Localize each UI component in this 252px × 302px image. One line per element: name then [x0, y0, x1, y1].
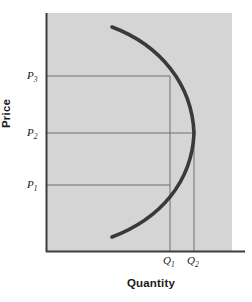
y-tick-p2-subscript: 2 [34, 132, 38, 141]
y-tick-p1-subscript: 1 [34, 184, 38, 193]
y-tick-label-p2: P2 [27, 126, 37, 141]
y-tick-p2-base: P [27, 126, 34, 138]
y-tick-label-p1: P1 [27, 178, 37, 193]
y-tick-p1-base: P [27, 178, 34, 190]
x-tick-label-q1: Q1 [163, 254, 175, 269]
chart-figure: Price Quantity P3 P2 P1 Q1 Q2 [0, 0, 252, 302]
x-tick-q1-base: Q [163, 254, 171, 266]
x-tick-q1-subscript: 1 [171, 260, 175, 269]
x-tick-label-q2: Q2 [187, 254, 199, 269]
y-tick-label-p3: P3 [27, 69, 37, 84]
supply-curve-chart [0, 0, 252, 302]
y-tick-p3-subscript: 3 [34, 75, 38, 84]
x-axis-title: Quantity [96, 277, 206, 289]
y-tick-p3-base: P [27, 69, 34, 81]
x-tick-q2-base: Q [187, 254, 195, 266]
y-axis-title: Price [0, 106, 12, 128]
x-tick-q2-subscript: 2 [195, 260, 199, 269]
